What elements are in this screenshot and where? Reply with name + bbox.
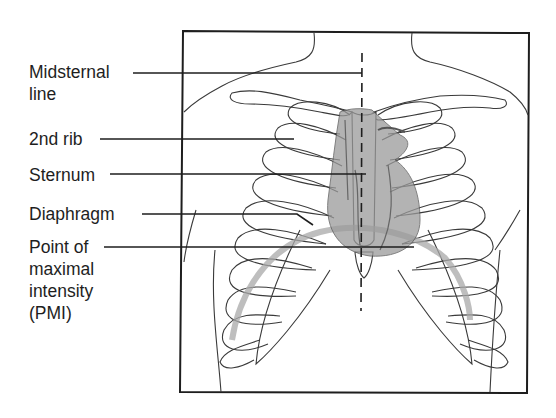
thorax-illustration [0, 0, 556, 418]
leader-diaphragm [142, 214, 313, 225]
heart [328, 109, 420, 257]
ribs-left [220, 102, 350, 368]
